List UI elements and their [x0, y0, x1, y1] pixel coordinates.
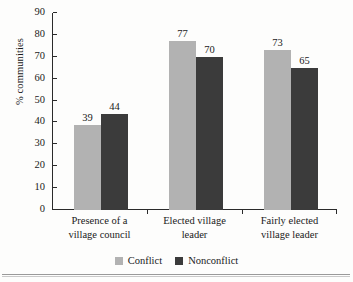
bar-value-nonconflict-presence: 44: [95, 101, 135, 113]
y-tick-label: 50: [19, 93, 45, 107]
category-label-presence-of-village-council: Presence of a village council: [52, 214, 147, 242]
category-label-line2: village council: [52, 228, 147, 242]
y-tick-label: 0: [19, 202, 45, 216]
bar-value-conflict-fairly-elected: 73: [258, 37, 298, 49]
figure-bottom-rule-secondary: [2, 276, 350, 277]
bar-conflict-fairly-elected-village-leader[interactable]: [264, 50, 291, 210]
bar-nonconflict-elected-village-leader[interactable]: [196, 57, 223, 210]
category-label-fairly-elected-village-leader: Fairly elected village leader: [242, 214, 337, 242]
bar-conflict-elected-village-leader[interactable]: [169, 41, 196, 210]
chart-legend: Conflict Nonconflict: [0, 255, 353, 266]
legend-item-conflict[interactable]: Conflict: [115, 255, 162, 266]
bar-conflict-presence-of-village-council[interactable]: [74, 125, 101, 210]
bar-nonconflict-fairly-elected-village-leader[interactable]: [291, 68, 318, 210]
bar-value-nonconflict-elected: 70: [190, 44, 230, 56]
category-label-line1: Fairly elected: [242, 214, 337, 228]
plot-area: 90 80 70 60 50 40 30 20 10 0 39 44: [52, 13, 337, 210]
category-label-line1: Elected village: [147, 214, 242, 228]
category-labels: Presence of a village council Elected vi…: [52, 214, 337, 248]
bar-value-nonconflict-fairly-elected: 65: [285, 55, 325, 67]
category-label-line2: village leader: [242, 228, 337, 242]
y-tick-label: 80: [19, 27, 45, 41]
category-label-elected-village-leader: Elected village leader: [147, 214, 242, 242]
legend-label-conflict: Conflict: [128, 255, 162, 266]
bar-chart: % communities 90 80 70 60 50 40 30 20 10…: [0, 0, 353, 282]
category-label-line2: leader: [147, 228, 242, 242]
category-label-line1: Presence of a: [52, 214, 147, 228]
bars-layer: 39 44 77 70 73 65: [52, 13, 337, 210]
nonconflict-swatch-icon: [175, 257, 183, 265]
conflict-swatch-icon: [115, 257, 123, 265]
y-tick-label: 70: [19, 49, 45, 63]
bar-nonconflict-presence-of-village-council[interactable]: [101, 114, 128, 210]
figure-bottom-rule: [2, 274, 350, 275]
y-tick-label: 40: [19, 114, 45, 128]
y-tick-label: 30: [19, 136, 45, 150]
bar-group-presence-of-village-council: 39 44: [52, 13, 147, 210]
bar-group-elected-village-leader: 77 70: [147, 13, 242, 210]
legend-label-nonconflict: Nonconflict: [188, 255, 238, 266]
y-tick-label: 10: [19, 180, 45, 194]
bar-group-fairly-elected-village-leader: 73 65: [242, 13, 337, 210]
y-tick-label: 90: [19, 5, 45, 19]
y-tick-label: 20: [19, 158, 45, 172]
y-tick-label: 60: [19, 71, 45, 85]
bar-value-conflict-elected: 77: [163, 28, 203, 40]
legend-item-nonconflict[interactable]: Nonconflict: [175, 255, 238, 266]
